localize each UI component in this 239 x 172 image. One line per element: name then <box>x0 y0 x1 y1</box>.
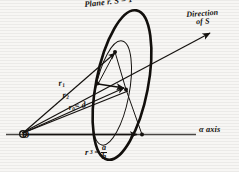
direction-of-s-arrow <box>22 33 210 133</box>
r3-equals: = <box>94 148 99 157</box>
fraction-denominator: h <box>101 152 108 161</box>
label-intercept-r3: r3 = a h <box>85 144 107 161</box>
label-vector-r2: r2 <box>62 90 69 101</box>
label-vector-r1: r1 <box>58 78 65 89</box>
origin-label: O <box>22 131 30 141</box>
fraction-a-over-h: a h <box>101 144 108 161</box>
chord-r1-to-d <box>98 52 115 84</box>
vector-r0-d <box>23 91 128 133</box>
fraction-numerator: a <box>101 144 107 152</box>
r3-base: r <box>85 148 88 157</box>
r1-sub: 1 <box>62 82 65 88</box>
chord-d-to-r3 <box>126 90 142 135</box>
r3-sub: 3 <box>90 150 93 155</box>
alpha-axis-label: α axis <box>199 126 220 135</box>
vector-r1 <box>23 53 115 133</box>
vector-d-short-arrow <box>98 84 124 88</box>
r0-tail: = d <box>74 100 87 111</box>
plane-ellipse <box>82 5 162 164</box>
direction-of-s-label: Direction of S <box>186 9 219 28</box>
vector-plane-diagram: Plane r. S = 1 Direction of S r1 r2 r0= … <box>0 0 239 172</box>
chord-r1-to-axis <box>115 52 126 90</box>
r2-sub: 2 <box>66 94 69 100</box>
